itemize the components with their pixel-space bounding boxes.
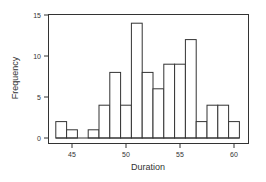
histogram-bar (218, 105, 229, 138)
x-axis: 45505560 (68, 144, 238, 159)
y-tick-label: 10 (33, 53, 41, 60)
y-tick-label: 15 (33, 12, 41, 19)
histogram-bar (207, 105, 218, 138)
histogram-bar (185, 40, 196, 138)
histogram-bar (131, 23, 142, 138)
y-axis-title: Frequency (10, 56, 20, 99)
histogram-bar (153, 89, 164, 138)
x-tick-label: 45 (68, 151, 76, 158)
histogram-bars (56, 23, 240, 138)
x-axis-title: Duration (131, 162, 165, 172)
histogram-bar (99, 105, 110, 138)
x-tick-label: 55 (176, 151, 184, 158)
histogram-bar (88, 130, 99, 138)
y-tick-label: 5 (37, 94, 41, 101)
histogram-bar (56, 122, 67, 138)
histogram-bar (121, 105, 132, 138)
x-tick-label: 60 (230, 151, 238, 158)
histogram-bar (110, 72, 121, 138)
histogram-bar (196, 122, 207, 138)
y-tick-label: 0 (37, 135, 41, 142)
histogram-bar (175, 64, 186, 138)
histogram-bar (229, 122, 240, 138)
histogram-bar (164, 64, 175, 138)
histogram-chart: 051015 45505560 Duration Frequency (0, 0, 266, 182)
histogram-bar (67, 130, 78, 138)
histogram-bar (142, 72, 153, 138)
y-axis: 051015 (33, 12, 48, 142)
x-tick-label: 50 (122, 151, 130, 158)
